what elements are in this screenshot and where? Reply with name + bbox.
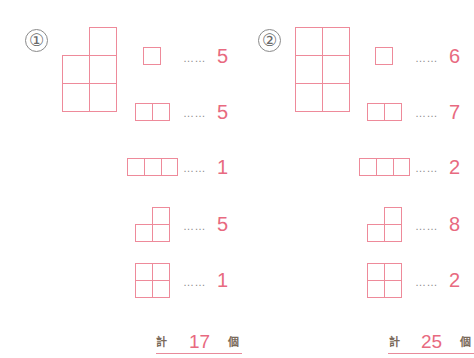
leader-dots: …… bbox=[183, 107, 206, 119]
total-value: 17 bbox=[189, 332, 210, 351]
count-value: 1 bbox=[217, 157, 228, 177]
leader-dots: …… bbox=[183, 52, 206, 64]
total-underline bbox=[388, 353, 474, 354]
total-underline bbox=[156, 353, 242, 354]
count-value: 5 bbox=[217, 102, 228, 122]
count-value: 5 bbox=[217, 214, 228, 234]
problem-2-label: ② bbox=[258, 29, 281, 52]
unit-square-shape bbox=[143, 47, 161, 65]
total-suffix: 個 bbox=[460, 337, 471, 349]
total-value: 25 bbox=[421, 332, 442, 351]
leader-dots: …… bbox=[415, 220, 438, 232]
leader-dots: …… bbox=[415, 276, 438, 288]
leader-dots: …… bbox=[415, 52, 438, 64]
count-value: 5 bbox=[217, 46, 228, 66]
total-prefix: 計 bbox=[156, 337, 167, 349]
count-value: 8 bbox=[449, 214, 460, 234]
problem-1-label: ① bbox=[25, 29, 48, 52]
total-suffix: 個 bbox=[228, 337, 239, 349]
count-value: 1 bbox=[217, 270, 228, 290]
count-value: 2 bbox=[449, 270, 460, 290]
count-value: 7 bbox=[449, 102, 460, 122]
leader-dots: …… bbox=[415, 162, 438, 174]
leader-dots: …… bbox=[183, 220, 206, 232]
count-value: 6 bbox=[449, 46, 460, 66]
total-prefix: 計 bbox=[389, 337, 400, 349]
leader-dots: …… bbox=[183, 276, 206, 288]
count-value: 2 bbox=[449, 157, 460, 177]
leader-dots: …… bbox=[415, 107, 438, 119]
leader-dots: …… bbox=[183, 162, 206, 174]
